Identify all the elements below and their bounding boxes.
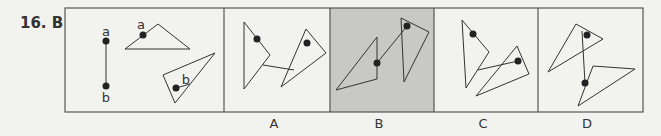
triangle-label-a: a (131, 17, 151, 32)
selected-option-highlight (330, 8, 434, 112)
puzzle-figure (0, 0, 661, 136)
option-a-figure (244, 22, 326, 89)
option-c-label[interactable]: C (473, 116, 493, 131)
stem-panel (106, 24, 215, 103)
option-d-label[interactable]: D (577, 116, 597, 131)
point-b-dot (103, 83, 110, 90)
stem-label-b: b (96, 90, 116, 105)
triangle-a-dot (140, 32, 147, 39)
option-a-label[interactable]: A (264, 116, 284, 131)
triangle-label-b: b (176, 72, 196, 87)
option-b-label[interactable]: B (369, 116, 389, 131)
stem-label-a: a (96, 24, 116, 39)
option-d-figure (548, 24, 635, 106)
